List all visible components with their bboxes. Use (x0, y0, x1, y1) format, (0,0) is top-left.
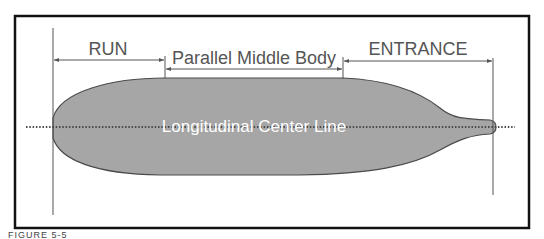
parallel-middle-body-label: Parallel Middle Body (172, 48, 336, 68)
run-label: RUN (89, 39, 128, 59)
center-line-label: Longitudinal Center Line (162, 117, 346, 136)
figure-caption: FIGURE 5-5 (8, 230, 68, 239)
ship-hull-diagram: RUN Parallel Middle Body ENTRANCE Longit… (0, 0, 544, 239)
entrance-label: ENTRANCE (368, 39, 467, 59)
